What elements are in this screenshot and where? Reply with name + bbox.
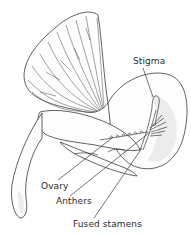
flower-diagram: Stigma Ovary Anthers Fused stamens [0,0,191,235]
flower-illustration [0,0,191,235]
label-fused-stamens: Fused stamens [73,219,142,229]
curved-stalk [11,113,42,218]
label-ovary: Ovary [41,181,68,191]
label-anthers: Anthers [56,196,92,206]
label-stigma: Stigma [133,56,165,66]
